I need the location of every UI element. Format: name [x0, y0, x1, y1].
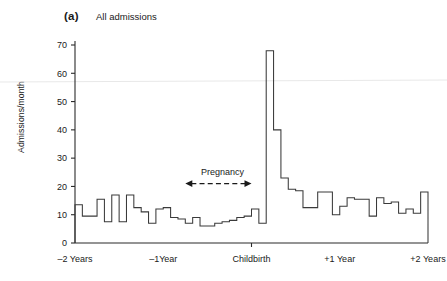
pregnancy-annotation-label: Pregnancy — [201, 167, 245, 177]
y-tick-label: 30 — [57, 153, 67, 163]
y-tick-label: 40 — [57, 125, 67, 135]
y-tick-label: 60 — [57, 69, 67, 79]
pregnancy-arrow-head-left — [185, 180, 192, 187]
x-tick-label: –2 Years — [57, 254, 93, 264]
x-tick-label: +1 Year — [324, 254, 355, 264]
scan-artifact-rule — [0, 80, 447, 82]
y-tick-label: 10 — [57, 210, 67, 220]
y-tick-label: 0 — [62, 238, 67, 248]
pregnancy-arrow-head-right — [245, 180, 252, 187]
chart-generated-layer: 010203040506070–2 Years–1YearChildbirth+… — [57, 40, 446, 264]
chart-canvas: 010203040506070–2 Years–1YearChildbirth+… — [0, 0, 447, 281]
x-tick-label: Childbirth — [232, 254, 270, 264]
admissions-step-series — [75, 51, 428, 243]
y-tick-label: 50 — [57, 97, 67, 107]
x-tick-label: +2 Years — [410, 254, 446, 264]
y-tick-label: 70 — [57, 40, 67, 50]
x-tick-label: –1Year — [149, 254, 177, 264]
y-tick-label: 20 — [57, 182, 67, 192]
figure-root: (a) All admissions Admissions/month 0102… — [0, 0, 447, 281]
